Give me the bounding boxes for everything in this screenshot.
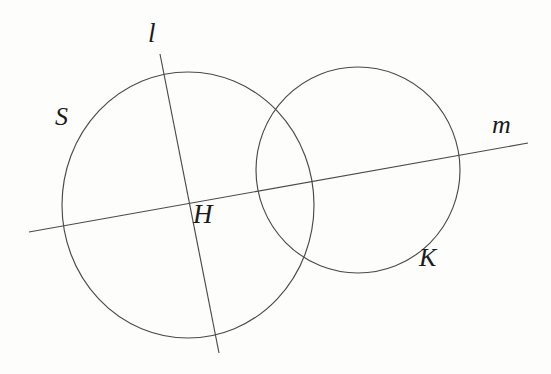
label-line-l: l [148, 20, 156, 47]
circle-s-shape [62, 72, 314, 338]
label-line-m: m [492, 112, 511, 138]
label-point-h: H [193, 201, 213, 228]
label-circle-s: S [55, 104, 68, 130]
geometry-figure: l S H m K [0, 0, 551, 374]
geometry-canvas [0, 0, 551, 374]
line-m-shape [29, 143, 528, 232]
label-circle-k: K [419, 245, 436, 271]
